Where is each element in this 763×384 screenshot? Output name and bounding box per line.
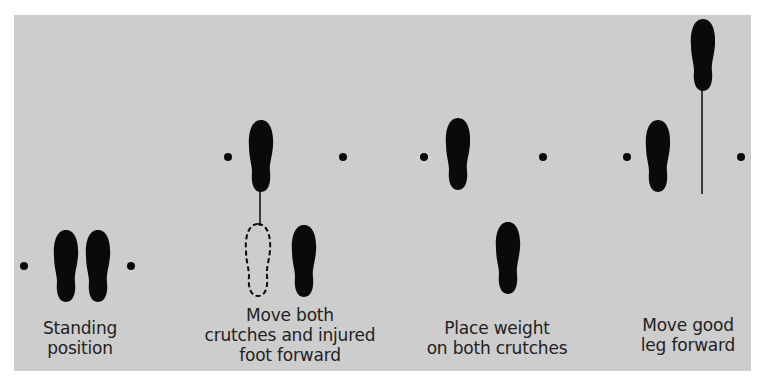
crutch-tip-right-icon [539, 153, 547, 161]
crutch-tip-right-icon [737, 153, 745, 161]
crutch-tip-left-icon [420, 153, 428, 161]
step-move-crutches-injured [224, 120, 347, 297]
caption-place-weight: Place weight on both crutches [412, 318, 582, 358]
good-foot-icon [496, 222, 520, 294]
caption-standing: Standing position [20, 318, 140, 358]
caption-move-good-leg: Move good leg forward [626, 315, 750, 355]
crutch-tip-right-icon [339, 153, 347, 161]
caption-move-crutches-injured: Move both crutches and injured foot forw… [200, 305, 380, 365]
crutch-tip-left-icon [224, 153, 232, 161]
injured-foot-forward-icon [249, 120, 273, 192]
good-foot-forward-icon [691, 19, 715, 91]
step-move-good-leg [623, 19, 745, 194]
caption-line: Move both [200, 305, 380, 325]
left-foot-icon [54, 230, 78, 302]
crutch-tip-right-icon [127, 262, 135, 270]
injured-foot-previous-outline-icon [246, 224, 270, 296]
step-standing [20, 230, 135, 302]
caption-line: Move good [626, 315, 750, 335]
crutch-tip-left-icon [20, 262, 28, 270]
caption-line: position [20, 338, 140, 358]
injured-foot-icon [646, 120, 670, 192]
crutch-tip-left-icon [623, 153, 631, 161]
good-foot-icon [292, 225, 316, 297]
caption-line: Place weight [412, 318, 582, 338]
caption-line: foot forward [200, 345, 380, 365]
right-foot-icon [86, 230, 110, 302]
caption-line: crutches and injured [200, 325, 380, 345]
caption-line: Standing [20, 318, 140, 338]
injured-foot-icon [446, 118, 470, 190]
caption-line: on both crutches [412, 338, 582, 358]
caption-line: leg forward [626, 335, 750, 355]
step-place-weight [420, 118, 547, 294]
